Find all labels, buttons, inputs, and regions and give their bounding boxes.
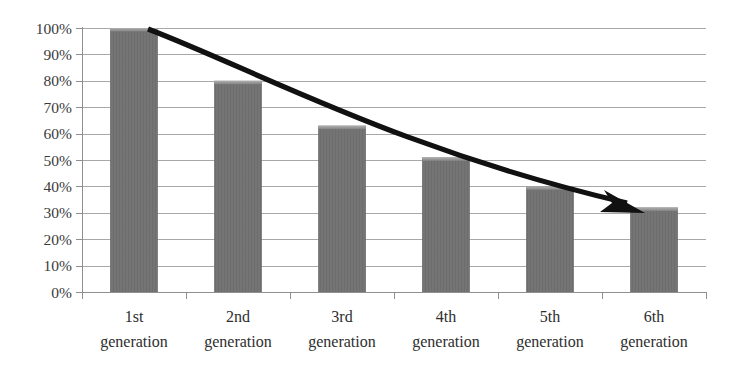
bar-chart: 0%10%20%30%40%50%60%70%80%90%100% 1stgen… [0, 0, 740, 383]
y-tick-label: 0% [51, 284, 72, 301]
bar-body [110, 28, 158, 292]
y-tick-label: 100% [36, 20, 72, 37]
y-tick-label: 30% [44, 204, 73, 221]
bar [318, 126, 366, 292]
y-tick-label: 70% [44, 99, 73, 116]
bar [526, 186, 574, 292]
y-tick-label: 50% [44, 152, 73, 169]
y-tick-label: 60% [44, 125, 73, 142]
y-tick-label: 10% [44, 257, 73, 274]
y-tick-label: 90% [44, 46, 73, 63]
bar-top-highlight [214, 81, 262, 85]
bar-body [630, 208, 678, 293]
y-tick-label: 80% [44, 72, 73, 89]
y-tick-label: 20% [44, 231, 73, 248]
bar [214, 81, 262, 292]
bar-body [422, 157, 470, 292]
bar [630, 208, 678, 293]
bar-body [214, 81, 262, 292]
y-tick-label: 40% [44, 178, 73, 195]
chart-canvas: 0%10%20%30%40%50%60%70%80%90%100% 1stgen… [0, 0, 740, 383]
bar [422, 157, 470, 292]
bar [110, 28, 158, 292]
bar-body [318, 126, 366, 292]
bar-body [526, 186, 574, 292]
bar-top-highlight [318, 126, 366, 130]
